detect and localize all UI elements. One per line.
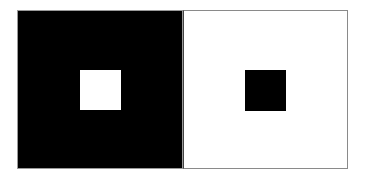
black-center-square <box>245 70 286 111</box>
white-center-square <box>80 70 121 110</box>
figure-description: Simultaneous brightness contrast illusio… <box>0 0 1 1</box>
